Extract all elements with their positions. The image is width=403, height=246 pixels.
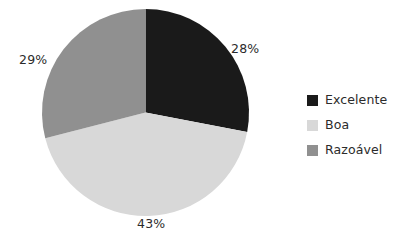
pie-chart: 28% 29% 43% Excelente Boa Razoável [0,0,403,246]
pie-slice-excelente[interactable] [146,9,250,132]
legend-item-boa[interactable]: Boa [307,113,403,138]
legend-item-excelente[interactable]: Excelente [307,88,403,113]
pie-slices [42,9,249,216]
pie-plot-area: 28% 29% 43% [0,0,290,246]
legend-swatch-razoavel [307,145,318,156]
legend-item-razoavel[interactable]: Razoável [307,138,403,163]
legend-label-boa: Boa [325,119,349,132]
slice-label-boa: 43% [137,218,165,231]
pie-svg [0,0,290,246]
legend-swatch-boa [307,120,318,131]
slice-label-razoavel: 29% [19,54,47,67]
slice-label-excelente: 28% [231,43,259,56]
legend-label-excelente: Excelente [325,94,387,107]
legend-label-razoavel: Razoável [325,144,382,157]
legend-swatch-excelente [307,95,318,106]
chart-legend: Excelente Boa Razoável [307,88,403,163]
